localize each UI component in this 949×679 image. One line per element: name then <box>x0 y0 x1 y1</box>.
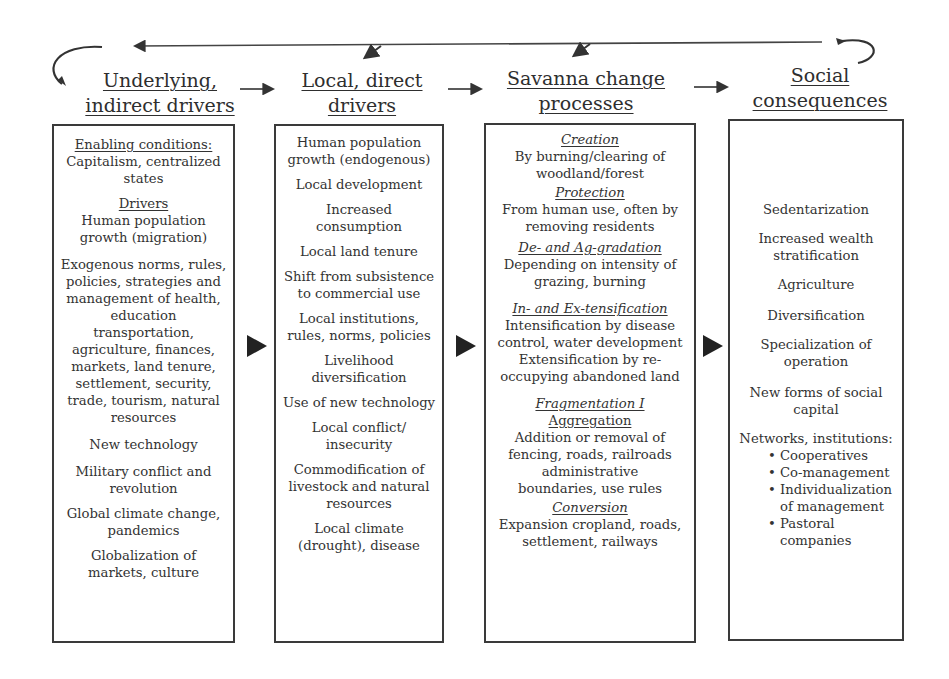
driver-item: New technology <box>60 436 227 453</box>
flow-arrow-icon <box>703 335 723 357</box>
consequence-item: Specialization of operation <box>736 336 896 370</box>
box-local-drivers: Human population growth (endogenous) Loc… <box>274 124 444 643</box>
process-text: Depending on intensity of grazing, burni… <box>490 256 690 290</box>
process-title-conversion: Conversion <box>490 499 690 516</box>
local-driver-item: Use of new technology <box>282 394 436 411</box>
local-driver-item: Local conflict/ insecurity <box>282 419 436 453</box>
local-driver-item: Local climate (drought), disease <box>282 520 436 554</box>
process-title-fragmentation: Fragmentation I <box>490 395 690 412</box>
consequence-item: Diversification <box>736 307 896 324</box>
box-underlying-drivers: Enabling conditions: Capitalism, central… <box>52 124 235 643</box>
local-driver-item: Increased consumption <box>282 201 436 235</box>
local-driver-item: Human population growth (endogenous) <box>282 134 436 168</box>
arrow-into-savanna <box>575 44 590 55</box>
driver-item: Global climate change, pandemics <box>60 505 227 539</box>
consequence-item: Increased wealth stratification <box>736 230 896 264</box>
consequence-item: Sedentarization <box>736 201 896 218</box>
enabling-conditions-heading: Enabling conditions: <box>60 136 227 153</box>
local-driver-item: Local land tenure <box>282 243 436 260</box>
local-driver-item: Livelihood diversification <box>282 352 436 386</box>
header-savanna-processes: Savanna change processes <box>506 66 666 116</box>
drivers-heading: Drivers <box>60 195 227 212</box>
driver-item: Exogenous norms, rules, policies, strate… <box>60 256 227 426</box>
networks-list-item: Cooperatives <box>770 447 896 464</box>
driver-item: Human population growth (migration) <box>60 212 227 246</box>
process-title-gradation: De- and Ag-gradation <box>490 239 690 256</box>
process-subtitle-aggregation: Aggregation <box>490 412 690 429</box>
enabling-conditions-text: Capitalism, centralized states <box>60 153 227 187</box>
process-text: From human use, often by removing reside… <box>490 201 690 235</box>
networks-heading: Networks, institutions: <box>736 430 896 447</box>
local-driver-item: Shift from subsistence to commercial use <box>282 268 436 302</box>
process-title-tensification: In- and Ex-tensification <box>490 300 690 317</box>
process-text: Expansion cropland, roads, settlement, r… <box>490 516 690 550</box>
process-text: By burning/clearing of woodland/forest <box>490 148 690 182</box>
networks-list: Cooperatives Co-management Individualiza… <box>736 447 896 549</box>
header-social-consequences: Social consequences <box>752 63 888 113</box>
arrow-into-local <box>366 46 381 57</box>
header-local-drivers: Local, direct drivers <box>288 68 436 118</box>
local-driver-item: Commodification of livestock and natural… <box>282 461 436 512</box>
process-text: Addition or removal of fencing, roads, r… <box>490 429 690 497</box>
networks-list-item: Pastoral companies <box>770 515 896 549</box>
box-social-consequences: Sedentarization Increased wealth stratif… <box>728 119 904 641</box>
networks-list-item: Individualization of management <box>770 481 896 515</box>
driver-item: Military conflict and revolution <box>60 463 227 497</box>
consequence-item: New forms of social capital <box>736 384 896 418</box>
local-driver-item: Local institutions, rules, norms, polici… <box>282 310 436 344</box>
driver-item: Globalization of markets, culture <box>60 547 227 581</box>
feedback-line <box>136 42 822 46</box>
process-title-protection: Protection <box>490 184 690 201</box>
local-driver-item: Local development <box>282 176 436 193</box>
right-curl-arrow <box>842 40 874 63</box>
header-underlying-drivers: Underlying, indirect drivers <box>80 68 240 118</box>
box-savanna-processes: Creation By burning/clearing of woodland… <box>484 123 696 643</box>
process-text: Intensification by disease control, wate… <box>490 317 690 385</box>
networks-list-item: Co-management <box>770 464 896 481</box>
flow-arrow-icon <box>456 335 476 357</box>
flow-arrow-icon <box>247 335 267 357</box>
consequence-item: Agriculture <box>736 276 896 293</box>
process-title-creation: Creation <box>490 131 690 148</box>
